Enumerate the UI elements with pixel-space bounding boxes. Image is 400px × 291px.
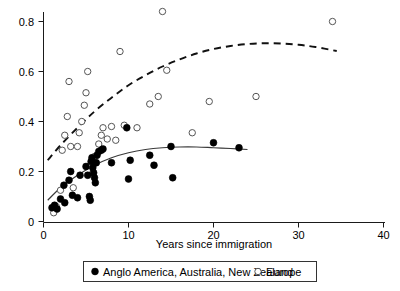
anglo-data-point: [92, 179, 99, 186]
anglo-data-point: [210, 139, 217, 146]
series-anglo-points: [49, 124, 243, 212]
x-tick-label: 10: [122, 229, 134, 241]
legend-label-europe: Europe: [266, 266, 301, 278]
anglo-data-point: [100, 146, 107, 153]
europe-data-point: [113, 137, 119, 143]
x-tick-label: 30: [292, 229, 304, 241]
y-tick-label: 0.6: [19, 66, 34, 78]
legend-marker-europe: [255, 268, 261, 274]
legend: Anglo America, Australia, New Zealand Eu…: [84, 262, 317, 282]
europe-fit-curve: [48, 43, 337, 160]
anglo-data-point: [66, 177, 73, 184]
europe-data-point: [66, 78, 72, 84]
x-tick-label: 0: [40, 229, 46, 241]
anglo-data-point: [77, 172, 84, 179]
europe-data-point: [74, 143, 80, 149]
europe-data-point: [79, 118, 85, 124]
y-tick-label: 0.4: [19, 116, 34, 128]
europe-data-point: [81, 102, 87, 108]
scatter-plot-figure: 00.20.40.60.8 010203040 Years since immi…: [0, 0, 400, 291]
anglo-data-point: [54, 206, 61, 213]
europe-data-point: [98, 132, 104, 138]
anglo-data-point: [125, 176, 132, 183]
europe-data-point: [134, 125, 140, 131]
europe-data-point: [117, 48, 123, 54]
europe-data-point: [76, 130, 82, 136]
anglo-data-point: [61, 199, 68, 206]
x-axis-title: Years since immigration: [156, 238, 272, 250]
anglo-data-point: [67, 168, 74, 175]
anglo-data-point: [87, 197, 94, 204]
europe-data-point: [68, 143, 74, 149]
europe-data-point: [253, 93, 259, 99]
anglo-data-point: [108, 159, 115, 166]
anglo-data-point: [74, 194, 81, 201]
europe-data-point: [189, 130, 195, 136]
legend-marker-anglo: [92, 268, 99, 275]
europe-data-point: [85, 68, 91, 74]
x-tick-label: 40: [377, 229, 389, 241]
anglo-data-point: [169, 174, 176, 181]
anglo-data-point: [127, 157, 134, 164]
y-tick-label: 0: [28, 216, 34, 228]
anglo-data-point: [236, 144, 243, 151]
anglo-data-point: [146, 152, 153, 159]
plot-canvas: 00.20.40.60.8 010203040 Years since immi…: [0, 0, 400, 291]
europe-data-point: [108, 123, 114, 129]
anglo-data-point: [93, 159, 100, 166]
anglo-data-point: [61, 182, 68, 189]
y-tick-label: 0.2: [19, 166, 34, 178]
europe-data-point: [64, 113, 70, 119]
y-axis-ticks: 00.20.40.60.8: [19, 16, 44, 228]
anglo-data-point: [123, 124, 130, 131]
europe-data-point: [104, 136, 110, 142]
europe-data-point: [206, 98, 212, 104]
europe-data-point: [100, 125, 106, 131]
europe-data-point: [62, 132, 68, 138]
europe-data-point: [70, 185, 76, 191]
europe-data-point: [59, 147, 65, 153]
europe-data-point: [329, 18, 335, 24]
legend-label-anglo: Anglo America, Australia, New Zealand: [103, 266, 293, 278]
europe-data-point: [83, 90, 89, 96]
anglo-data-point: [168, 143, 175, 150]
anglo-data-point: [83, 163, 90, 170]
y-tick-label: 0.8: [19, 16, 34, 28]
europe-data-point: [155, 93, 161, 99]
anglo-data-point: [151, 162, 158, 169]
europe-data-point: [164, 67, 170, 73]
axes-group: [44, 12, 386, 223]
europe-data-point: [159, 8, 165, 14]
europe-data-point: [147, 101, 153, 107]
